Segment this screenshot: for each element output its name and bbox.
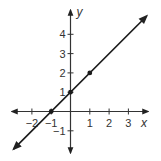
x-tick-label: 3 bbox=[125, 117, 131, 129]
coordinate-plane: −2−1123−11234 x y bbox=[0, 0, 161, 161]
line-y-equals-x-plus-1 bbox=[14, 16, 147, 149]
y-tick-label: −1 bbox=[53, 125, 66, 137]
y-tick-label: 1 bbox=[59, 86, 65, 98]
data-point bbox=[87, 71, 92, 76]
y-tick-label: 2 bbox=[59, 67, 65, 79]
x-axis-label: x bbox=[140, 116, 148, 130]
x-tick-label: 1 bbox=[87, 117, 93, 129]
y-axis-label: y bbox=[76, 5, 84, 19]
data-point bbox=[68, 90, 73, 95]
data-point bbox=[49, 109, 54, 114]
y-tick-label: 4 bbox=[59, 28, 65, 40]
plot-line bbox=[14, 16, 147, 149]
y-tick-label: 3 bbox=[59, 48, 65, 60]
x-tick-label: 2 bbox=[106, 117, 112, 129]
axes bbox=[12, 10, 148, 153]
